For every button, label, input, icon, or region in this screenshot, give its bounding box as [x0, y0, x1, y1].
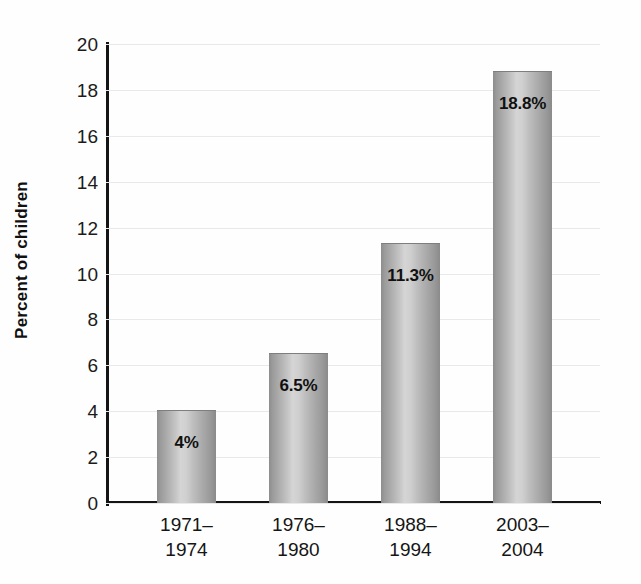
bar-chart: Percent of children 20181614121086420 4%… — [0, 0, 641, 584]
y-tick-label: 16 — [42, 126, 98, 145]
x-tick-label: 1976–1980 — [244, 512, 354, 562]
y-tick-label: 6 — [42, 356, 98, 375]
y-tick-label: 4 — [42, 402, 98, 421]
y-tick-label: 12 — [42, 218, 98, 237]
bar-value-label: 11.3% — [381, 266, 440, 286]
y-tick-label: 2 — [42, 448, 98, 467]
bar: 11.3% — [381, 243, 440, 503]
x-tick-label: 2003–2004 — [468, 512, 578, 562]
y-tick-label: 14 — [42, 172, 98, 191]
x-tick-label-line2: 1974 — [132, 537, 242, 562]
y-axis-tick-labels: 20181614121086420 — [38, 44, 98, 503]
plot-area: 4%6.5%11.3%18.8% — [106, 44, 600, 503]
bar: 6.5% — [269, 353, 328, 503]
y-tick-label: 8 — [42, 310, 98, 329]
y-axis-title-label: Percent of children — [12, 181, 32, 339]
x-tick-label-line2: 1980 — [244, 537, 354, 562]
x-tick-label-line2: 1994 — [356, 537, 466, 562]
x-axis-category-labels: 1971–19741976–19801988–19942003–2004 — [106, 512, 600, 576]
x-tick-label-line1: 1971– — [160, 514, 213, 535]
y-tick-label: 20 — [42, 35, 98, 54]
y-tick-label: 18 — [42, 80, 98, 99]
gridline — [106, 503, 600, 504]
x-tick-label: 1988–1994 — [356, 512, 466, 562]
y-tick-label: 10 — [42, 264, 98, 283]
x-tick-label-line1: 1988– — [384, 514, 437, 535]
bar: 4% — [157, 410, 216, 503]
x-tick-label-line1: 1976– — [272, 514, 325, 535]
x-tick-label: 1971–1974 — [132, 512, 242, 562]
bar-value-label: 18.8% — [493, 94, 552, 114]
bar-value-label: 4% — [157, 433, 216, 453]
bar: 18.8% — [493, 71, 552, 503]
bar-value-label: 6.5% — [269, 376, 328, 396]
x-tick-label-line1: 2003– — [496, 514, 549, 535]
y-tick-label: 0 — [42, 494, 98, 513]
gridline — [106, 44, 600, 45]
x-tick-label-line2: 2004 — [468, 537, 578, 562]
